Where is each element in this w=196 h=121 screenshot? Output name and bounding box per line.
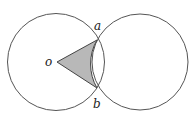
two-circles-diagram: o a b	[0, 0, 196, 121]
shaded-region	[57, 40, 97, 88]
label-b: b	[93, 97, 101, 111]
right-circle	[92, 14, 188, 110]
label-a: a	[94, 19, 101, 33]
label-o: o	[45, 55, 52, 69]
